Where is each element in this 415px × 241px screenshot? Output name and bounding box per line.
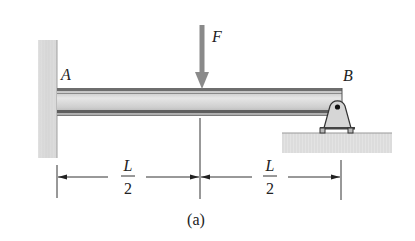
beam (57, 88, 342, 116)
dimension-left-label: L 2 (121, 157, 135, 197)
roller-right-icon (348, 128, 353, 133)
dim-left-numerator: L (123, 157, 133, 174)
point-b-label: B (343, 67, 353, 84)
dimension-right-label: L 2 (263, 157, 277, 197)
roller-left-icon (320, 128, 325, 133)
point-a-label: A (60, 66, 71, 83)
dim-right-numerator: L (265, 157, 275, 174)
dim-left-denominator: 2 (124, 180, 132, 197)
beam-diagram: F A B L 2 L 2 (a) (0, 0, 415, 241)
ground-block (282, 133, 392, 153)
figure-caption: (a) (187, 211, 205, 229)
fixed-wall-support (38, 40, 57, 158)
force-arrow (195, 25, 209, 89)
dimension-lines (57, 118, 341, 200)
pin-icon (335, 104, 340, 109)
dim-right-denominator: 2 (266, 180, 274, 197)
force-label: F (211, 28, 222, 45)
